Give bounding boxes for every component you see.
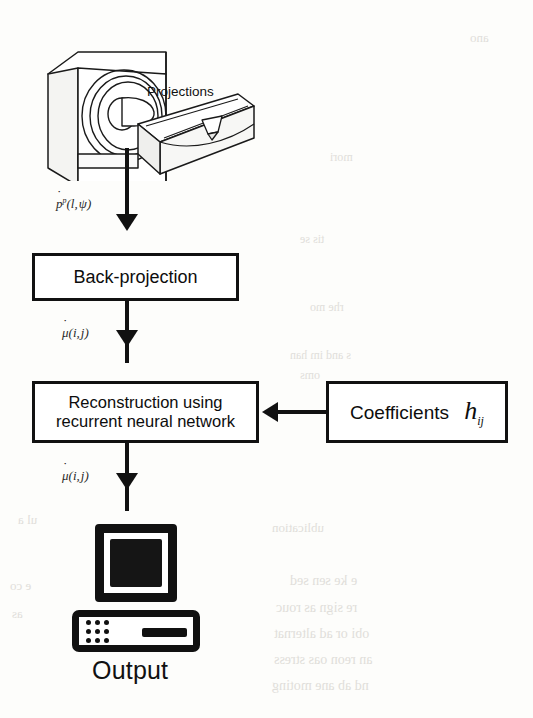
bleedthrough-text: e co: [10, 578, 31, 594]
node-coefficients-symbol: hij: [464, 396, 484, 425]
node-coefficients[interactable]: Coefficients hij: [326, 381, 508, 443]
figure-canvas: anomoritis serhe mos and im hanomsublica…: [0, 0, 533, 718]
bleedthrough-text: nd ab ane moting: [272, 678, 369, 694]
bleedthrough-text: tis se: [300, 232, 324, 247]
bleedthrough-text: as: [12, 606, 23, 622]
projections-label: Projections: [147, 84, 214, 99]
node-reconstruction-label-line2: recurrent neural network: [56, 412, 235, 430]
edge-label-mu-reconstructed: μ(i, j): [62, 468, 89, 484]
bleedthrough-text: obi or ad alternat: [274, 626, 369, 642]
node-back-projection-label: Back-projection: [67, 267, 203, 288]
arrowhead-coefficients-to-reconstruction: [262, 402, 278, 422]
node-reconstruction[interactable]: Reconstruction using recurrent neural ne…: [32, 381, 259, 443]
bleedthrough-text: an reon oas stress: [274, 652, 372, 668]
bleedthrough-text: ano: [470, 30, 489, 46]
edge-coefficients-to-reconstruction: [271, 410, 329, 414]
output-label: Output: [92, 656, 168, 685]
ct-scanner-gantry-with-patient-table: [42, 46, 257, 181]
node-reconstruction-label-line1: Reconstruction using: [68, 393, 222, 411]
edge-label-projections: pp(l, ψ): [56, 196, 91, 212]
arrowhead-reconstruction-to-output: [116, 473, 138, 490]
arrowhead-scanner-to-backprojection: [116, 214, 138, 231]
bleedthrough-text: s and im han: [290, 348, 351, 363]
bleedthrough-text: rhe mo: [310, 300, 344, 315]
drive-slot-icon: [142, 628, 187, 637]
keypad-dots-icon: [86, 620, 109, 643]
bleedthrough-text: oms: [300, 368, 320, 383]
bleedthrough-text: re sign as rouc: [276, 600, 357, 616]
node-back-projection[interactable]: Back-projection: [32, 253, 239, 301]
edge-scanner-to-backprojection: [125, 148, 129, 218]
edge-label-mu-backprojected: μ(i, j): [62, 325, 89, 341]
bleedthrough-text: mori: [330, 150, 353, 165]
bleedthrough-text: e ke sen sed: [290, 573, 357, 589]
monitor-screen: [110, 539, 162, 587]
bleedthrough-text: ublication: [272, 520, 324, 536]
arrowhead-backprojection-to-reconstruction: [116, 330, 138, 347]
bleedthrough-text: ul a: [18, 512, 37, 528]
node-coefficients-label: Coefficients: [350, 402, 449, 423]
